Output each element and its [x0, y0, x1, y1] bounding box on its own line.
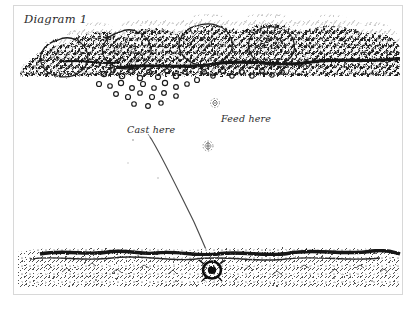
diagram-root: Diagram 1 Cast here Feed here: [0, 0, 416, 317]
diagram-frame: [13, 5, 403, 295]
page-title: Diagram 1: [24, 12, 87, 26]
cast-here-label: Cast here: [127, 124, 175, 135]
feed-here-label: Feed here: [221, 113, 271, 124]
